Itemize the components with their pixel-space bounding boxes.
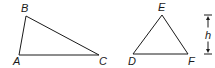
arrow-up-icon [206,16,210,20]
vertex-label-b: B [21,2,28,14]
vertex-label-e: E [158,1,166,13]
height-dimension-marker: h [204,15,212,54]
vertex-label-a: A [12,55,20,67]
vertex-label-d: D [128,55,136,67]
height-label-h: h [205,29,211,41]
triangle-abc [19,16,99,55]
triangle-def [133,15,188,54]
vertex-label-c: C [99,55,107,67]
triangle-diagram: A B C D E F h [0,0,215,68]
vertex-label-f: F [188,55,196,67]
diagram-svg: A B C D E F h [0,0,215,68]
arrow-down-icon [206,49,210,53]
